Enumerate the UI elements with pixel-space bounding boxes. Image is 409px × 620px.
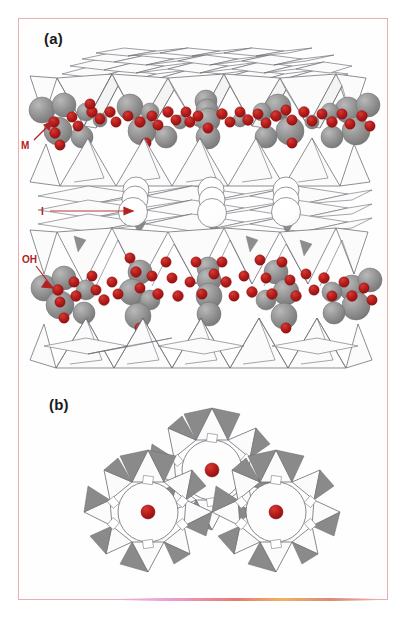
panel-b-label: (b) (49, 396, 69, 413)
annotation-label-i: I (41, 206, 44, 217)
panel-a-label: (a) (44, 30, 63, 47)
figure-root: (a) (b) M I OH (0, 0, 409, 620)
annotation-label-m: M (21, 140, 29, 151)
figure-frame (18, 18, 388, 600)
annotation-label-oh: OH (22, 254, 37, 265)
